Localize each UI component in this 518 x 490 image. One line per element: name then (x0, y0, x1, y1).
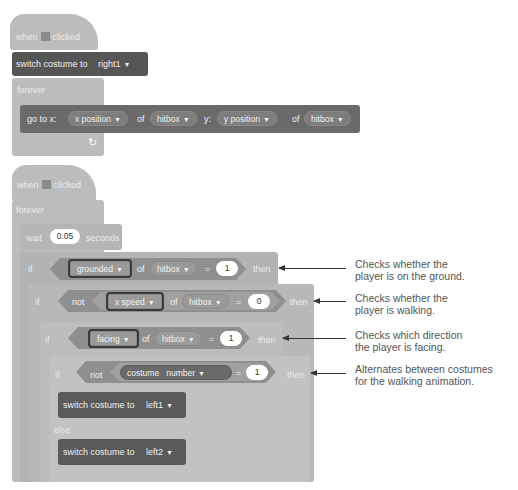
hitbox-dropdown[interactable]: hitbox▼ (182, 294, 229, 309)
equals-label: = (209, 333, 214, 345)
annotation-walking: Checks whether theplayer is walking. (355, 292, 518, 316)
arrow-icon (279, 268, 346, 269)
facing-dropdown[interactable]: facing▼ (90, 331, 137, 346)
loop-arrow-icon: ↻ (88, 136, 97, 148)
if-label: if (28, 263, 33, 275)
if-label: if (45, 334, 50, 346)
hitbox-dropdown[interactable]: hitbox▼ (150, 261, 197, 276)
then-label: then (258, 334, 276, 346)
not-label: not (72, 296, 85, 308)
wait-label: wait (26, 232, 42, 244)
if-label: if (35, 296, 40, 308)
green-flag-icon (41, 32, 50, 41)
of-label: of (170, 296, 178, 308)
hat1-when: whenclicked (16, 31, 80, 43)
hat2-when: whenclicked (17, 179, 81, 191)
forever-label-1: forever (17, 84, 45, 96)
green-flag-icon (42, 180, 51, 189)
of-label: of (137, 113, 145, 125)
switch-costume-label: switch costume to (63, 399, 135, 411)
y-position-dropdown[interactable]: y position▼ (217, 111, 277, 126)
value-input[interactable]: 1 (220, 331, 242, 346)
arrow-icon (314, 301, 346, 302)
then-label: then (287, 369, 305, 381)
value-input[interactable]: 1 (216, 261, 238, 276)
costume-dropdown-left1[interactable]: left1▼ (146, 399, 173, 412)
value-input[interactable]: 0 (248, 294, 270, 309)
value-input[interactable]: 1 (246, 365, 268, 380)
of-label: of (142, 333, 150, 345)
else-label: else (54, 424, 71, 436)
hitbox-dropdown-y[interactable]: hitbox▼ (304, 111, 351, 126)
costume-number-reporter[interactable]: costume number▼ (120, 365, 232, 380)
seconds-label: seconds (86, 232, 120, 244)
equals-label: = (205, 263, 210, 275)
equals-label: = (236, 367, 241, 379)
annotation-costumes: Alternates between costumesfor the walki… (355, 363, 518, 387)
if-label: if (55, 369, 60, 381)
arrow-icon (283, 338, 346, 339)
switch-costume-label: switch costume to (16, 58, 88, 70)
x-position-dropdown[interactable]: x position▼ (68, 111, 128, 126)
of-label: of (137, 263, 145, 275)
chevron-down-icon: ▼ (124, 61, 131, 68)
arrow-icon (311, 373, 346, 374)
switch-costume-label: switch costume to (63, 446, 135, 458)
annotation-grounded: Checks whether theplayer is on the groun… (355, 258, 518, 282)
annotation-facing: Checks which directionthe player is faci… (355, 329, 518, 353)
wait-seconds-input[interactable]: 0.05 (50, 229, 80, 244)
grounded-dropdown[interactable]: grounded▼ (70, 261, 130, 276)
costume-dropdown-right1[interactable]: right1▼ (98, 58, 130, 71)
forever-label-2: forever (16, 204, 44, 216)
then-label: then (253, 263, 271, 275)
then-label: then (290, 296, 308, 308)
go-to-label: go to x: (27, 113, 57, 125)
hitbox-dropdown[interactable]: hitbox▼ (155, 331, 202, 346)
x-speed-dropdown[interactable]: x speed▼ (108, 294, 162, 309)
of-label: of (292, 113, 300, 125)
costume-dropdown-left2[interactable]: left2▼ (146, 446, 173, 459)
not-label: not (90, 369, 103, 381)
equals-label: = (236, 296, 241, 308)
hitbox-dropdown-x[interactable]: hitbox▼ (150, 111, 197, 126)
y-label: y: (204, 113, 211, 125)
